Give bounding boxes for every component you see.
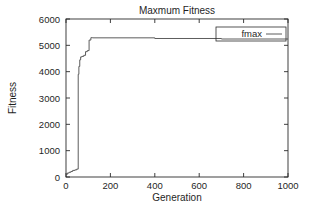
y-tick-label-3000: 3000 [39, 93, 60, 104]
y-axis-title: Fitness [7, 82, 18, 114]
chart-figure: Maxmum Fitness 0100020003000400050006000… [0, 0, 310, 216]
x-tick-label-400: 400 [147, 180, 163, 191]
x-tick-label-800: 800 [236, 180, 252, 191]
x-tick-label-1000: 1000 [277, 180, 298, 191]
x-axis-title: Generation [152, 192, 201, 203]
maximum-fitness-line-chart: Maxmum Fitness 0100020003000400050006000… [0, 0, 310, 216]
y-tick-label-5000: 5000 [39, 40, 60, 51]
legend-label-fmax: fmax [241, 28, 262, 39]
y-tick-label-2000: 2000 [39, 119, 60, 130]
y-tick-label-0: 0 [55, 172, 60, 183]
y-tick-label-6000: 6000 [39, 14, 60, 25]
y-tick-label-1000: 1000 [39, 145, 60, 156]
x-tick-label-200: 200 [102, 180, 118, 191]
chart-title: Maxmum Fitness [139, 5, 215, 16]
x-tick-label-600: 600 [191, 180, 207, 191]
y-tick-label-4000: 4000 [39, 66, 60, 77]
x-tick-label-0: 0 [63, 180, 68, 191]
